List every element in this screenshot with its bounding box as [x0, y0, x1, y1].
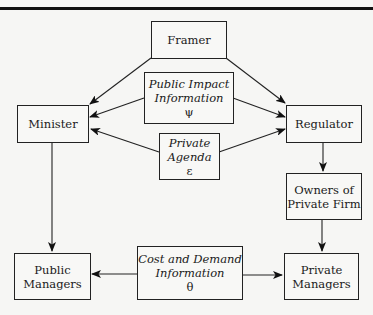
- diagram-canvas: Framer Public Impact Information ψ Minis…: [0, 0, 373, 315]
- edge-agenda-minister: [91, 129, 159, 152]
- node-label-line2: Information: [154, 91, 223, 105]
- node-label-line2: Managers: [23, 277, 81, 291]
- node-minister: Minister: [17, 105, 89, 143]
- node-label: Minister: [28, 117, 77, 131]
- node-label-line1: Public Impact: [149, 77, 230, 91]
- edge-framer-minister: [90, 58, 151, 104]
- edge-agenda-regulator: [219, 129, 285, 152]
- node-label-line1: Public: [34, 263, 70, 277]
- node-label: Framer: [167, 33, 211, 47]
- node-label-line2: Information: [155, 266, 224, 280]
- theta-symbol: θ: [187, 280, 194, 294]
- psi-symbol: ψ: [184, 105, 193, 119]
- node-private-managers: Private Managers: [284, 253, 359, 300]
- node-regulator: Regulator: [286, 105, 362, 143]
- node-label-line2: Agenda: [167, 150, 211, 164]
- node-cost-and-demand-information: Cost and Demand Information θ: [137, 246, 243, 300]
- epsilon-symbol: ε: [187, 164, 193, 178]
- node-framer: Framer: [151, 21, 227, 59]
- node-label-line1: Owners of: [294, 183, 354, 197]
- node-owners-of-private-firm: Owners of Private Firm: [286, 173, 362, 220]
- edge-impact-minister: [90, 98, 144, 117]
- node-label: Regulator: [295, 117, 353, 131]
- node-public-impact-information: Public Impact Information ψ: [144, 72, 234, 124]
- node-label-line1: Private: [169, 136, 211, 150]
- node-label-line2: Private Firm: [287, 197, 360, 211]
- edge-framer-regulator: [226, 58, 285, 103]
- edge-impact-regulator: [233, 98, 285, 117]
- node-label-line1: Cost and Demand: [138, 252, 242, 266]
- node-public-managers: Public Managers: [14, 253, 91, 300]
- node-label-line2: Managers: [292, 277, 350, 291]
- node-label-line1: Private: [301, 263, 343, 277]
- node-private-agenda: Private Agenda ε: [159, 133, 220, 180]
